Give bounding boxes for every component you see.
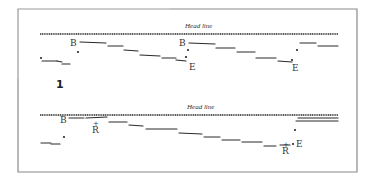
point-label-e: E xyxy=(189,62,196,72)
baseline-segment xyxy=(189,43,215,44)
point-label-plus: + xyxy=(283,141,289,149)
marker-dot xyxy=(294,129,296,131)
baseline-segment xyxy=(86,117,107,118)
baseline-segment xyxy=(124,50,138,51)
baseline-segment xyxy=(57,61,62,62)
panel-top: Head line BBEE 1 xyxy=(40,22,338,91)
point-label-b: B xyxy=(60,115,67,125)
headline-diagram: Head line BBEE 1 Head line BR+ER+ xyxy=(0,0,379,184)
marker-dot xyxy=(296,49,298,51)
marker-dot xyxy=(187,49,189,51)
marker-dot xyxy=(40,57,42,59)
marker-dot xyxy=(77,51,79,53)
marker-dot xyxy=(185,56,187,58)
point-label-plus: + xyxy=(93,120,99,128)
marker-dots-top xyxy=(40,49,298,61)
baseline-segment xyxy=(179,133,202,134)
baseline-segment xyxy=(80,42,106,43)
baseline-segment xyxy=(278,61,292,62)
point-label-e: E xyxy=(296,139,303,149)
baseline-segment xyxy=(129,125,143,126)
point-label-b: B xyxy=(70,38,77,48)
baseline-segments-top xyxy=(42,42,338,64)
panel-bottom: Head line BR+ER+ xyxy=(40,103,338,156)
diagram-canvas: Head line BBEE 1 Head line BR+ER+ xyxy=(0,0,379,184)
marker-dot xyxy=(63,136,65,138)
baseline-segments-bottom xyxy=(41,117,338,146)
headline-label-bottom: Head line xyxy=(186,103,214,111)
marker-dot xyxy=(291,59,293,61)
point-labels-bottom: BR+ER+ xyxy=(60,115,303,156)
point-label-e: E xyxy=(292,63,299,73)
baseline-segment xyxy=(176,60,186,61)
point-label-b: B xyxy=(179,38,186,48)
marker-dot xyxy=(292,143,294,145)
headline-label-top: Head line xyxy=(184,22,212,30)
figure-number: 1 xyxy=(56,78,64,91)
baseline-segment xyxy=(140,55,160,56)
